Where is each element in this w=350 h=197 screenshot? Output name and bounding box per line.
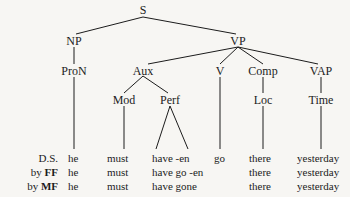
node-aux: Aux (133, 65, 154, 77)
row-label-bold: MF (41, 180, 58, 192)
node-s: S (140, 4, 147, 16)
cell-perf: have -en (152, 152, 190, 164)
cell-must: must (107, 180, 128, 192)
cell-v: go (214, 152, 225, 164)
node-pron: ProN (61, 65, 86, 77)
row-label-ff: by FF (0, 166, 58, 178)
row-label-ds: D.S. (0, 152, 58, 164)
row-label-bold: FF (45, 166, 58, 178)
node-comp: Comp (248, 65, 277, 77)
cell-he: he (68, 152, 78, 164)
cell-loc: there (249, 166, 271, 178)
row-label-prefix: by (27, 180, 41, 192)
cell-he: he (68, 166, 78, 178)
cell-he: he (68, 180, 78, 192)
row-label-mf: by MF (0, 180, 58, 192)
node-perf: Perf (160, 94, 180, 106)
cell-time: yesterday (297, 166, 339, 178)
cell-must: must (107, 166, 128, 178)
node-mod: Mod (113, 94, 136, 106)
cell-perf: have go -en (152, 166, 203, 178)
cell-loc: there (249, 152, 271, 164)
node-vp: VP (230, 35, 245, 47)
node-time: Time (309, 94, 334, 106)
row-label-prefix: by (31, 166, 45, 178)
node-loc: Loc (254, 94, 273, 106)
node-vap: VAP (310, 65, 332, 77)
cell-perf: have gone (152, 180, 197, 192)
cell-time: yesterday (297, 152, 339, 164)
cell-must: must (107, 152, 128, 164)
row-label-text: D.S. (38, 152, 58, 164)
node-v: V (216, 65, 225, 77)
cell-loc: there (249, 180, 271, 192)
cell-time: yesterday (297, 180, 339, 192)
node-np: NP (66, 35, 81, 47)
